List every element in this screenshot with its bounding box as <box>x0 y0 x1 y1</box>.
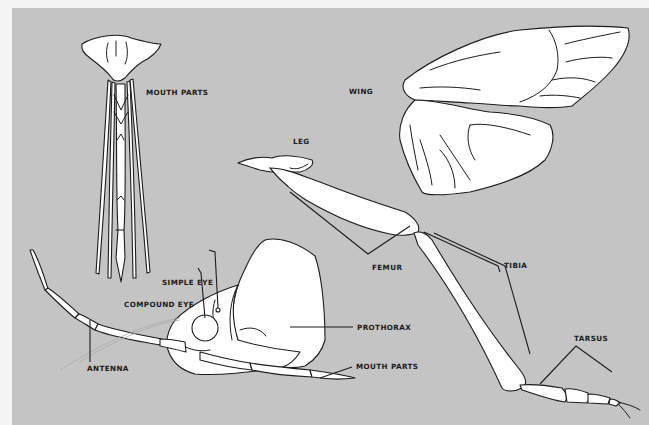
label-antenna: ANTENNA <box>87 365 129 372</box>
label-leg: LEG <box>293 138 310 145</box>
label-tarsus: TARSUS <box>574 335 608 342</box>
label-simple-eye: SIMPLE EYE <box>162 279 213 286</box>
insect-anatomy-illustration <box>0 0 649 425</box>
label-tibia: TIBIA <box>504 262 527 269</box>
label-mouth-parts-detached: MOUTH PARTS <box>146 89 208 96</box>
label-prothorax: PROTHORAX <box>357 324 411 331</box>
compound-eye-shape <box>192 315 218 341</box>
label-compound-eye: COMPOUND EYE <box>124 301 194 308</box>
head-prothorax-drawing <box>30 239 355 379</box>
label-mouth-parts-head: MOUTH PARTS <box>356 363 418 370</box>
label-wing: WING <box>349 88 373 95</box>
mouth-parts-detached-drawing <box>82 35 161 282</box>
label-femur: FEMUR <box>372 264 402 271</box>
simple-eye-shape <box>216 308 220 312</box>
wing-drawing <box>400 26 630 194</box>
